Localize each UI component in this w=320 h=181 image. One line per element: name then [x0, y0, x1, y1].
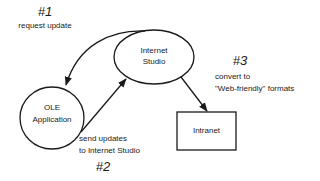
step-3-label-line1: convert to: [215, 72, 250, 82]
step-1-number: #1: [30, 5, 60, 19]
ole-application-label-line1: OLE: [22, 103, 82, 113]
workflow-diagram: #1 request update Internet Studio OLE Ap…: [0, 0, 320, 181]
step-2-number: #2: [88, 160, 118, 174]
step-3-label-line2: "Web-friendly" formats: [215, 84, 294, 94]
send-updates-arrow: [81, 79, 126, 132]
step-3-number: #3: [225, 54, 255, 68]
internet-studio-label-line2: Studio: [124, 57, 184, 67]
step-1-label: request update: [5, 21, 85, 31]
intranet-label: Intranet: [177, 126, 236, 136]
convert-arrow: [181, 77, 207, 111]
step-2-label-line1: send updates: [79, 134, 127, 144]
ole-application-label-line2: Application: [22, 115, 82, 125]
internet-studio-label-line1: Internet: [124, 46, 184, 56]
step-2-label-line2: to Internet Studio: [79, 146, 140, 156]
